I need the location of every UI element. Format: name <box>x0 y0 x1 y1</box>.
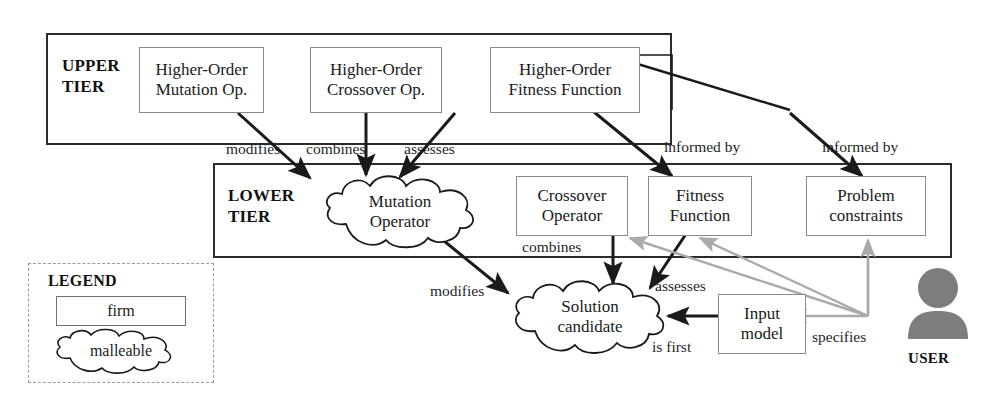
edge-label-modifies-upper: modifies <box>226 140 280 158</box>
node-line2: model <box>741 324 784 344</box>
legend-firm-label: firm <box>107 302 135 320</box>
node-input-model: Input model <box>718 294 806 354</box>
edge-label-assesses-upper: assesses <box>404 140 455 158</box>
lower-tier-label: LOWER TIER <box>228 185 294 228</box>
node-line1: Problem <box>837 186 895 206</box>
node-higher-order-mutation-op: Higher-Order Mutation Op. <box>139 47 264 113</box>
edge-label-combines-upper: combines <box>306 140 365 158</box>
diagram-canvas: UPPER TIER LOWER TIER Higher-Order Mutat… <box>0 0 996 394</box>
node-line2: Mutation Op. <box>156 80 248 100</box>
node-solution-candidate: Solution candidate <box>497 273 683 361</box>
legend-malleable-swatch: malleable <box>48 328 194 374</box>
edge-label-combines-lower: combines <box>522 238 581 256</box>
legend-malleable-label: malleable <box>48 328 194 374</box>
upper-tier-label-line2: TIER <box>62 76 120 97</box>
node-line2: Fitness Function <box>509 80 622 100</box>
node-line2: Operator <box>370 212 430 232</box>
node-crossover-operator: Crossover Operator <box>516 176 628 236</box>
edge-label-specifies: specifies <box>812 328 866 346</box>
edge-label-informed-by-2: informed by <box>822 138 898 156</box>
node-label-mutation-operator: Mutation Operator <box>310 168 490 256</box>
node-line2: Crossover Op. <box>327 80 425 100</box>
edge-label-modifies-lower: modifies <box>430 282 484 300</box>
lower-tier-label-line1: LOWER <box>228 185 294 206</box>
legend-firm-swatch: firm <box>56 296 186 326</box>
edge-label-informed-by-1: informed by <box>664 138 740 156</box>
node-line1: Solution <box>561 297 619 317</box>
user-label: USER <box>908 350 949 367</box>
node-higher-order-crossover-op: Higher-Order Crossover Op. <box>310 47 442 113</box>
upper-tier-label: UPPER TIER <box>62 55 120 98</box>
node-higher-order-fitness-function: Higher-Order Fitness Function <box>490 47 640 113</box>
node-line1: Fitness <box>676 186 724 206</box>
node-line2: Operator <box>542 206 602 226</box>
node-line2: Function <box>670 206 730 226</box>
node-line1: Mutation <box>369 192 431 212</box>
node-line1: Higher-Order <box>155 60 247 80</box>
node-line1: Input <box>744 304 780 324</box>
node-problem-constraints: Problem constraints <box>806 176 926 236</box>
upper-tier-label-line1: UPPER <box>62 55 120 76</box>
legend-title: LEGEND <box>48 272 117 290</box>
node-line1: Crossover <box>538 186 607 206</box>
node-fitness-function: Fitness Function <box>648 176 752 236</box>
node-line2: constraints <box>829 206 903 226</box>
user-avatar-icon <box>900 267 976 343</box>
lower-tier-label-line2: TIER <box>228 206 294 227</box>
node-label-solution-candidate: Solution candidate <box>497 273 683 361</box>
node-line2: candidate <box>557 317 622 337</box>
node-line1: Higher-Order <box>330 60 422 80</box>
node-mutation-operator: Mutation Operator <box>310 168 490 256</box>
node-line1: Higher-Order <box>519 60 611 80</box>
